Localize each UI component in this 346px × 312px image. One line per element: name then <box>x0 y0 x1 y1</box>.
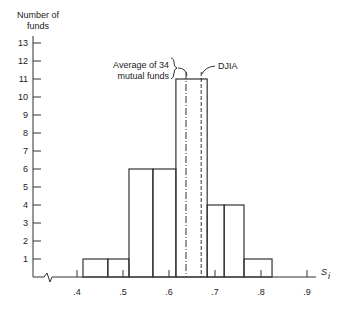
y-axis-label-line1: Number of <box>17 10 60 20</box>
histogram-bar <box>207 205 224 277</box>
y-tick-label: 11 <box>19 74 28 84</box>
x-tick-label: .6 <box>165 287 173 297</box>
y-tick-label: 2 <box>23 236 28 246</box>
histogram-bar <box>153 169 176 277</box>
y-tick-label: 7 <box>23 146 28 156</box>
x-axis-label: S <box>321 267 327 277</box>
histogram-bar <box>108 259 129 277</box>
histogram-bar <box>224 205 244 277</box>
histogram-chart: Number offunds12345678910111213.4.5.6.7.… <box>0 0 346 312</box>
y-tick-label: 5 <box>23 182 28 192</box>
x-tick-label: .9 <box>303 287 311 297</box>
y-tick-label: 9 <box>23 110 28 120</box>
y-tick-label: 13 <box>18 38 28 48</box>
djia-pointer-arrow <box>202 66 215 74</box>
x-tick-label: .8 <box>257 287 265 297</box>
x-tick-label: .4 <box>73 287 81 297</box>
x-tick-label: .5 <box>119 287 127 297</box>
y-axis-label-line2: funds <box>27 21 50 31</box>
brace-icon <box>171 58 177 79</box>
avg-annotation-line1: Average of 34 <box>113 60 169 70</box>
y-tick-label: 1 <box>23 254 28 264</box>
x-axis-label-subscript: i <box>328 271 331 281</box>
y-tick-label: 8 <box>23 128 28 138</box>
histogram-bar <box>244 259 272 277</box>
y-tick-label: 6 <box>23 164 28 174</box>
chart-canvas: Number offunds12345678910111213.4.5.6.7.… <box>0 0 346 312</box>
x-tick-label: .7 <box>211 287 219 297</box>
y-tick-label: 4 <box>23 200 28 210</box>
y-tick-label: 3 <box>23 218 28 228</box>
histogram-bar <box>83 259 108 277</box>
y-tick-label: 12 <box>18 56 28 66</box>
djia-annotation: DJIA <box>218 61 238 71</box>
y-tick-label: 10 <box>18 92 28 102</box>
histogram-bar <box>176 79 207 277</box>
histogram-bar <box>129 169 153 277</box>
avg-annotation-line2: mutual funds <box>117 71 169 81</box>
